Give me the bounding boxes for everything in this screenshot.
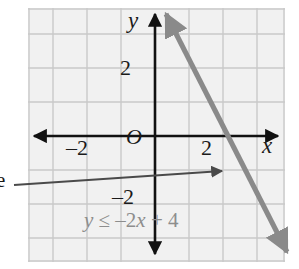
- origin-label: O: [126, 126, 142, 148]
- x-tick-label-2: 2: [201, 137, 212, 159]
- y-tick-label-negative-2: –2: [112, 186, 134, 208]
- graph-figure: y x O 2 –2 2 –2 y ≤ –2x + 4 e: [0, 0, 299, 269]
- inequality-constant: 4: [168, 208, 179, 232]
- inequality-plus-sign: +: [151, 208, 163, 232]
- callout-letter-fragment: e: [0, 170, 5, 191]
- inequality-coefficient: –2: [115, 208, 136, 232]
- inequality-variable-x: x: [136, 208, 145, 232]
- y-tick-label-2: 2: [120, 57, 131, 79]
- inequality-operator: ≤: [99, 208, 111, 232]
- x-tick-label-negative-2: –2: [66, 137, 88, 159]
- inequality-annotation: y ≤ –2x + 4: [84, 210, 179, 231]
- inequality-variable-y: y: [84, 208, 93, 232]
- x-axis-label: x: [262, 134, 272, 157]
- y-axis-label: y: [128, 9, 138, 32]
